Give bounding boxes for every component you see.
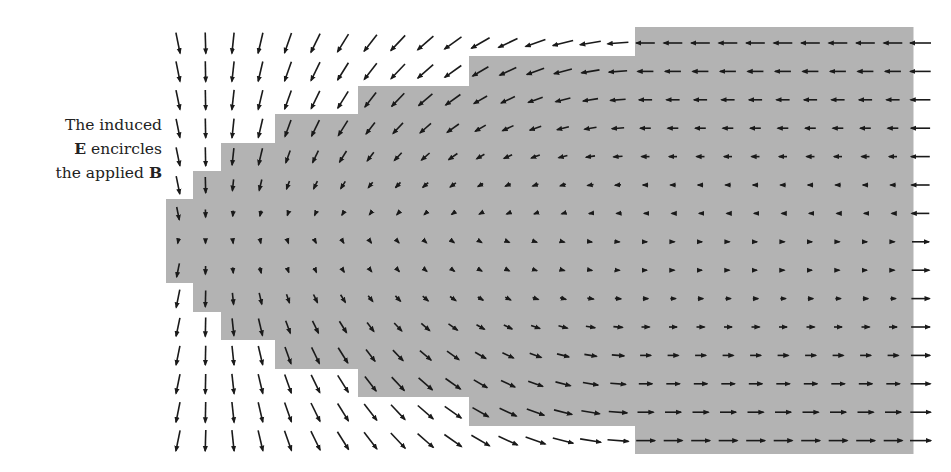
e-field-arrow-icon bbox=[178, 240, 179, 243]
b-region-step bbox=[635, 27, 914, 454]
e-field-arrow-icon bbox=[176, 374, 180, 393]
e-field-arrow-icon bbox=[499, 436, 518, 445]
e-field-arrow-icon bbox=[608, 440, 629, 442]
e-field-arrow-icon bbox=[613, 327, 622, 328]
e-field-arrow-icon bbox=[587, 298, 593, 299]
e-field-arrow-icon bbox=[258, 62, 263, 82]
b-region-step bbox=[193, 171, 222, 312]
e-field-arrow-icon bbox=[176, 290, 180, 308]
e-field-arrow-icon bbox=[258, 402, 263, 422]
e-field-arrow-icon bbox=[338, 404, 349, 421]
e-field-arrow-icon bbox=[233, 267, 234, 273]
e-field-arrow-icon bbox=[176, 346, 180, 365]
e-field-arrow-icon bbox=[285, 62, 292, 81]
e-field-arrow-icon bbox=[364, 63, 377, 79]
e-field-arrow-icon bbox=[612, 355, 624, 356]
b-region-step bbox=[221, 143, 276, 340]
e-field-arrow-icon bbox=[445, 406, 462, 418]
e-field-arrow-icon bbox=[562, 270, 565, 271]
e-field-arrow-icon bbox=[391, 433, 405, 448]
e-field-arrow-icon bbox=[499, 39, 518, 48]
e-field-arrow-icon bbox=[176, 318, 180, 336]
e-field-arrow-icon bbox=[288, 240, 289, 243]
e-field-arrow-icon bbox=[258, 119, 262, 138]
e-field-arrow-icon bbox=[233, 211, 234, 217]
e-field-arrow-icon bbox=[258, 90, 263, 109]
applied-b-region bbox=[166, 27, 914, 454]
e-field-arrow-icon bbox=[580, 439, 601, 442]
e-field-arrow-icon bbox=[176, 61, 180, 81]
b-region-step bbox=[469, 56, 636, 426]
e-field-arrow-icon bbox=[614, 156, 623, 157]
e-field-arrow-icon bbox=[176, 176, 180, 194]
e-field-arrow-icon bbox=[364, 35, 377, 52]
e-field-arrow-icon bbox=[391, 64, 405, 79]
e-field-arrow-icon bbox=[338, 34, 349, 52]
e-field-arrow-icon bbox=[337, 432, 348, 450]
b-region-step bbox=[166, 199, 194, 283]
e-field-arrow-icon bbox=[526, 437, 546, 444]
e-field-arrow-icon bbox=[418, 434, 434, 448]
e-field-arrow-icon bbox=[445, 66, 462, 78]
e-field-arrow-icon bbox=[258, 33, 263, 53]
e-field-arrow-icon bbox=[311, 62, 320, 80]
e-field-arrow-icon bbox=[232, 33, 234, 54]
e-field-arrow-icon bbox=[444, 435, 461, 447]
e-field-arrow-icon bbox=[553, 438, 573, 443]
e-field-arrow-icon bbox=[176, 430, 180, 451]
e-field-arrow-icon bbox=[588, 185, 594, 186]
e-field-arrow-icon bbox=[232, 90, 234, 110]
e-field-arrow-icon bbox=[507, 213, 510, 214]
e-field-arrow-icon bbox=[205, 430, 206, 451]
e-field-arrow-icon bbox=[205, 33, 206, 54]
e-field-arrow-icon bbox=[608, 42, 629, 44]
e-field-arrow-icon bbox=[580, 41, 601, 44]
e-field-arrow-icon bbox=[232, 430, 234, 451]
e-field-arrow-icon bbox=[338, 63, 349, 80]
e-field-arrow-icon bbox=[258, 346, 262, 365]
e-field-arrow-icon bbox=[258, 374, 263, 393]
e-field-arrow-icon bbox=[507, 241, 510, 242]
e-field-arrow-icon bbox=[612, 128, 624, 129]
e-field-arrow-icon bbox=[338, 91, 348, 108]
vector-field-diagram bbox=[0, 0, 951, 472]
e-field-arrow-icon bbox=[338, 375, 349, 392]
e-field-arrow-icon bbox=[285, 431, 292, 451]
e-field-arrow-icon bbox=[562, 213, 565, 214]
e-field-arrow-icon bbox=[562, 241, 565, 242]
e-field-arrow-icon bbox=[391, 35, 405, 50]
e-field-arrow-icon bbox=[589, 270, 592, 271]
e-field-arrow-icon bbox=[176, 402, 180, 422]
e-field-arrow-icon bbox=[418, 406, 433, 419]
e-field-arrow-icon bbox=[311, 403, 320, 421]
e-field-arrow-icon bbox=[364, 404, 377, 420]
e-field-arrow-icon bbox=[445, 37, 462, 49]
e-field-arrow-icon bbox=[311, 91, 320, 109]
e-field-arrow-icon bbox=[534, 213, 537, 214]
e-field-arrow-icon bbox=[258, 430, 263, 450]
e-field-arrow-icon bbox=[534, 241, 537, 242]
e-field-arrow-icon bbox=[232, 119, 234, 138]
e-field-arrow-icon bbox=[285, 33, 292, 53]
e-field-arrow-icon bbox=[232, 61, 234, 81]
e-field-arrow-icon bbox=[391, 405, 405, 420]
e-field-arrow-icon bbox=[526, 40, 546, 47]
e-field-arrow-icon bbox=[232, 346, 234, 365]
e-field-arrow-icon bbox=[176, 119, 180, 138]
e-field-arrow-icon bbox=[260, 240, 261, 243]
e-field-arrow-icon bbox=[285, 91, 292, 110]
e-field-arrow-icon bbox=[285, 375, 292, 394]
e-field-arrow-icon bbox=[418, 36, 434, 50]
e-field-arrow-icon bbox=[471, 435, 489, 446]
e-field-arrow-icon bbox=[311, 375, 320, 393]
e-field-arrow-icon bbox=[418, 65, 433, 78]
e-field-arrow-icon bbox=[553, 40, 573, 45]
e-field-arrow-icon bbox=[176, 33, 180, 54]
e-field-arrow-icon bbox=[176, 90, 180, 109]
e-field-arrow-icon bbox=[311, 34, 320, 53]
e-field-arrow-icon bbox=[176, 147, 180, 165]
e-field-arrow-icon bbox=[232, 402, 234, 422]
e-field-arrow-icon bbox=[534, 270, 537, 271]
e-field-arrow-icon bbox=[285, 403, 292, 422]
e-field-arrow-icon bbox=[232, 374, 234, 394]
